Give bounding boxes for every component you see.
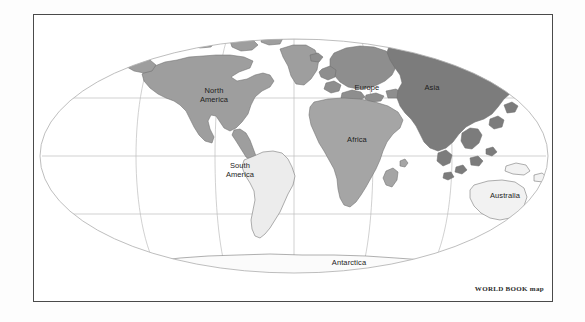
label-europe: Europe	[338, 84, 396, 93]
label-north-america: North America	[182, 87, 246, 104]
world-map-figure: North America South America Europe Afric…	[0, 0, 585, 322]
label-south-america: South America	[208, 162, 272, 179]
label-antarctica: Antarctica	[318, 259, 380, 268]
map-frame: North America South America Europe Afric…	[33, 14, 553, 302]
world-map-svg	[34, 15, 554, 303]
label-africa: Africa	[330, 136, 384, 145]
label-australia: Australia	[474, 192, 536, 201]
map-credit: WORLD BOOK map	[475, 285, 544, 293]
map-canvas: North America South America Europe Afric…	[34, 15, 554, 303]
label-asia: Asia	[408, 84, 456, 93]
